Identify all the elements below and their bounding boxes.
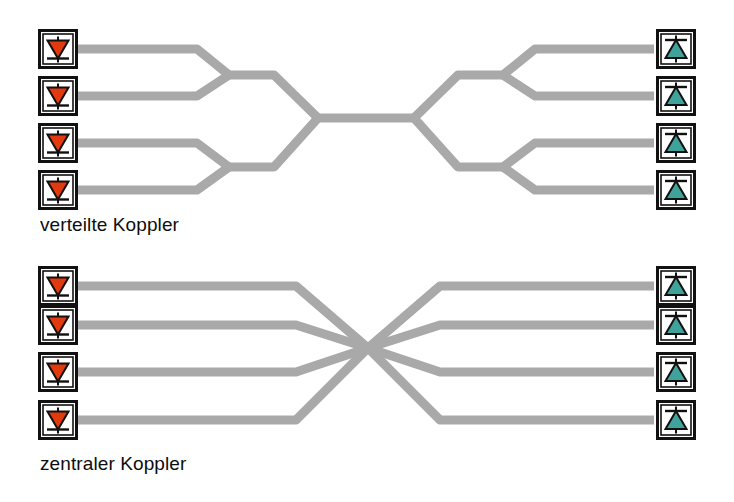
caption-verteilte-koppler: verteilte Koppler: [40, 214, 180, 235]
caption-zentraler-koppler: zentraler Koppler: [40, 453, 187, 474]
receiver-icon: [658, 125, 695, 162]
receiver-icon: [658, 354, 695, 391]
transmitter-icon: [40, 125, 77, 162]
transmitter-icon: [40, 354, 77, 391]
receiver-icon: [658, 307, 695, 344]
transmitter-icon: [40, 268, 77, 305]
figure-background: [0, 0, 734, 502]
coupler-topology-figure: verteilte Koppler: [0, 0, 734, 502]
transmitter-icon: [40, 402, 77, 439]
receiver-icon: [658, 78, 695, 115]
receiver-icon: [658, 31, 695, 68]
receiver-icon: [658, 268, 695, 305]
transmitter-icon: [40, 31, 77, 68]
transmitter-icon: [40, 307, 77, 344]
receiver-icon: [658, 402, 695, 439]
transmitter-icon: [40, 172, 77, 209]
transmitter-icon: [40, 78, 77, 115]
receiver-group-bottom: [658, 268, 695, 439]
transmitter-group-bottom: [40, 268, 77, 439]
receiver-icon: [658, 172, 695, 209]
